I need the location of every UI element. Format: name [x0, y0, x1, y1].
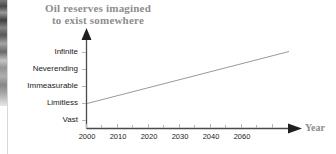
x-axis-name: Year [305, 122, 325, 133]
y-axis-arrowhead [82, 28, 92, 40]
y-axis-label-neverending: Neverending [33, 65, 78, 73]
y-axis-label-limitless: Limitless [47, 99, 78, 107]
y-axis-label-infinite: Infinite [54, 48, 78, 56]
chart-figure: Oil reserves imagined to exist somewhere [0, 0, 336, 154]
data-series-line [87, 52, 289, 104]
x-axis-ticks [87, 124, 273, 128]
x-axis-label-2040: 2040 [198, 133, 224, 141]
x-axis-label-2010: 2010 [105, 133, 131, 141]
y-axis-label-immeasurable: Immeasurable [27, 82, 78, 90]
plot-area [0, 0, 336, 154]
x-axis-label-2030: 2030 [167, 133, 193, 141]
y-axis-ticks [82, 53, 86, 121]
x-axis-label-2060: 2060 [229, 133, 255, 141]
y-axis-label-vast: Vast [63, 116, 78, 124]
x-axis-label-2020: 2020 [136, 133, 162, 141]
x-axis-label-2000: 2000 [74, 133, 100, 141]
x-axis-arrowhead [288, 124, 302, 134]
